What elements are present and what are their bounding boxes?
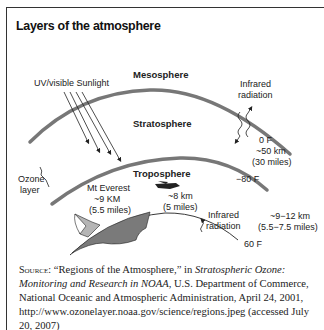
tropopause-temp: −80 F xyxy=(236,174,260,184)
infrared-lower-label-1: Infrared xyxy=(208,210,239,220)
stratopause-miles: (30 miles) xyxy=(252,157,292,167)
ozone-label-1: Ozone xyxy=(18,174,45,184)
everest-altitude: ~9 KM xyxy=(94,194,120,204)
mesosphere-label: Mesosphere xyxy=(133,69,188,80)
mountain-icon xyxy=(72,212,150,253)
atmosphere-diagram: UV/visible Sunlight Mesosphere Stratosph… xyxy=(0,0,324,262)
stratopause-temp: 0 F xyxy=(259,135,273,145)
tropopause-curve xyxy=(52,158,267,204)
infrared-upper-label-1: Infrared xyxy=(240,79,271,89)
tropopause-miles: (5.5−7.5 miles) xyxy=(258,222,318,232)
source-prefix: Source: xyxy=(19,264,51,275)
source-text-1: “Regions of the Atmosphere,” in xyxy=(51,264,195,275)
tropopause-altitude: ~9−12 km xyxy=(270,211,310,221)
everest-name: Mt Everest xyxy=(87,183,131,193)
sunlight-label: UV/visible Sunlight xyxy=(34,78,110,88)
infrared-upper-label-2: radiation xyxy=(238,90,273,100)
source-citation: Source: “Regions of the Atmosphere,” in … xyxy=(19,263,319,330)
troposphere-label: Troposphere xyxy=(133,168,191,179)
infrared-lower-icon xyxy=(201,220,204,232)
airplane-miles: (5 miles) xyxy=(163,202,198,212)
infrared-wave-icon xyxy=(236,108,251,142)
airplane-altitude: ~8 km xyxy=(168,191,193,201)
stratosphere-label: Stratosphere xyxy=(133,118,192,129)
surface-temp: 60 F xyxy=(244,239,263,249)
everest-miles: (5.5 miles) xyxy=(89,205,131,215)
airplane-icon xyxy=(155,181,180,189)
infrared-lower-label-2: radiation xyxy=(206,221,241,231)
ozone-label-2: layer xyxy=(20,185,40,195)
stratopause-altitude: ~50 km xyxy=(256,146,286,156)
